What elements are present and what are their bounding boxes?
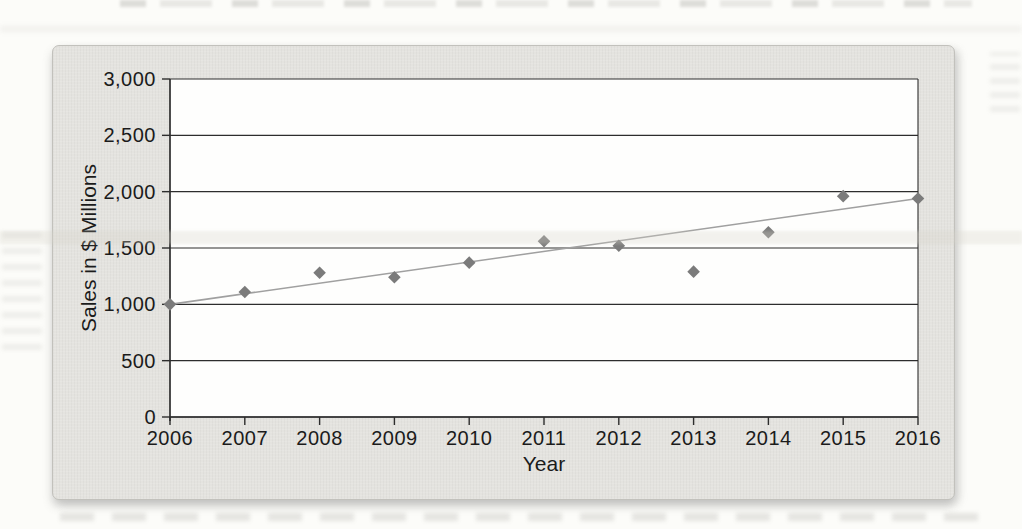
y-tick-label: 2,500 bbox=[103, 124, 156, 146]
x-tick-label: 2011 bbox=[521, 427, 566, 449]
x-tick-label: 2009 bbox=[371, 427, 418, 449]
x-tick-label: 2013 bbox=[670, 427, 717, 449]
y-axis-title: Sales in $ Millions bbox=[77, 164, 100, 332]
x-tick-label: 2006 bbox=[147, 427, 194, 449]
x-tick-label: 2015 bbox=[820, 427, 867, 449]
x-tick-label: 2014 bbox=[745, 427, 792, 449]
x-axis-title: Year bbox=[523, 452, 565, 475]
y-tick-label: 500 bbox=[121, 350, 156, 372]
scanned-page: 05001,0001,5002,0002,5003,00020062007200… bbox=[0, 0, 1022, 529]
y-tick-label: 1,500 bbox=[103, 237, 156, 259]
x-tick-label: 2016 bbox=[895, 427, 942, 449]
y-tick-label: 2,000 bbox=[103, 181, 156, 203]
y-tick-label: 0 bbox=[144, 406, 156, 428]
x-tick-label: 2007 bbox=[222, 427, 269, 449]
x-tick-label: 2010 bbox=[446, 427, 493, 449]
y-tick-label: 1,000 bbox=[103, 293, 156, 315]
x-tick-label: 2012 bbox=[596, 427, 643, 449]
x-tick-label: 2008 bbox=[296, 427, 343, 449]
y-tick-label: 3,000 bbox=[103, 68, 156, 90]
sales-scatter-chart: 05001,0001,5002,0002,5003,00020062007200… bbox=[0, 0, 1022, 529]
